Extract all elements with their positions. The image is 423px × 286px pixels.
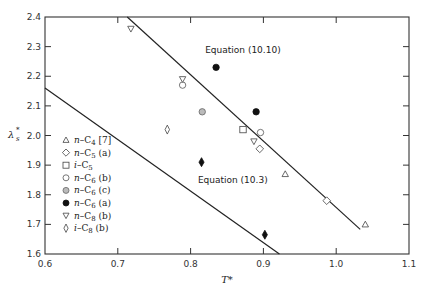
x-tick-label: 0.9 [256,259,271,269]
filled-circle-marker [63,200,69,206]
triangle-down-marker [128,26,134,32]
legend-item: n–C5 (a) [62,148,111,160]
y-tick-label: 1.9 [27,160,42,170]
triangle-marker [362,221,368,227]
gray-circle-marker [199,109,205,115]
legend-label: n–C5 (a) [74,148,111,160]
legend-item: n–C6 (a) [63,198,111,210]
triangle-down-marker [251,139,257,145]
triangle-marker [282,171,288,177]
y-tick-label: 1.6 [27,249,42,259]
diamond-marker [323,197,331,205]
legend-label: n–C4 [7] [74,135,111,147]
legend: n–C4 [7]n–C5 (a)i–C5n–C6 (b)n–C6 (c)n–C6… [62,135,111,235]
y-tick-label: 2.2 [27,71,41,81]
y-tick-label: 2.3 [27,42,41,52]
thin-diamond-marker [64,224,68,232]
legend-label: n–C6 (b) [74,173,111,185]
equation-10-3-label: Equation (10.3) [198,175,268,185]
x-tick-label: 1.0 [329,259,344,269]
legend-item: i–C5 [63,160,93,172]
x-tick-label: 0.8 [183,259,198,269]
x-tick-label: 1.1 [402,259,416,269]
y-axis-label-sup: * [16,126,20,134]
filled-circle-marker [213,64,219,70]
legend-label: n–C6 (a) [74,198,111,210]
diamond-marker [256,145,264,153]
legend-label: i–C5 [74,160,93,172]
y-axis-label-main: λ [7,129,14,140]
y-tick-label: 1.8 [27,190,42,200]
thin-diamond-marker [165,125,169,134]
y-tick-label: 2.0 [27,131,42,141]
triangle-marker [63,137,69,142]
x-axis-label: T* [221,274,233,285]
diamond-marker [62,149,69,156]
y-axis-label-sub: s [16,135,20,143]
triangle-down-marker [179,77,185,83]
filled-thin-diamond-marker [199,158,204,167]
equation-10-10-label: Equation (10.10) [205,45,281,55]
gray-circle-marker [63,187,69,193]
filled-thin-diamond-marker [262,230,267,239]
legend-label: n–C6 (c) [74,185,111,197]
legend-item: n–C4 [7] [63,135,111,147]
square-marker [240,126,246,132]
legend-item: n–C8 (b) [63,211,111,223]
square-marker [63,162,69,168]
filled-circle-marker [253,109,259,115]
legend-item: n–C6 (b) [63,173,111,185]
triangle-down-marker [63,213,69,218]
y-tick-label: 1.7 [27,219,41,229]
x-tick-label: 0.6 [38,259,53,269]
y-axis-label: λ s * [7,126,20,143]
y-tick-label: 2.1 [27,101,41,111]
chart: 0.60.70.80.91.01.11.61.71.81.92.02.12.22… [0,0,423,286]
y-tick-label: 2.4 [27,12,42,22]
legend-item: i–C8 (b) [64,223,109,235]
x-tick-label: 0.7 [111,259,125,269]
legend-label: i–C8 (b) [74,223,108,235]
legend-label: n–C8 (b) [74,211,111,223]
legend-item: n–C6 (c) [63,185,111,197]
data-points [128,26,369,239]
circle-marker [257,129,263,135]
circle-marker [63,175,69,181]
